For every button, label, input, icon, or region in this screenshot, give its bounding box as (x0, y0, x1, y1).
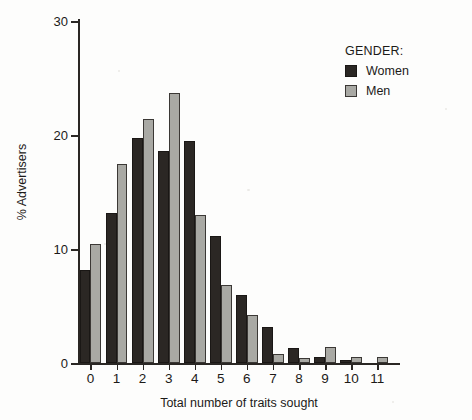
bar-women-2 (132, 138, 143, 363)
bar-women-0 (80, 270, 91, 363)
bar-men-5 (221, 285, 232, 363)
x-tick-2 (143, 364, 145, 370)
legend-swatch-women-icon (345, 65, 357, 77)
bar-men-6 (247, 315, 258, 363)
bar-men-8 (299, 358, 310, 363)
x-tick-9 (325, 364, 327, 370)
bar-men-3 (169, 93, 180, 363)
bar-women-1 (106, 213, 117, 363)
bar-men-11 (377, 357, 388, 363)
legend-swatch-men-icon (345, 85, 357, 97)
x-tick-8 (299, 364, 301, 370)
x-tick-1 (117, 364, 119, 370)
bar-men-2 (143, 119, 154, 363)
y-tick-20 (71, 135, 78, 137)
x-tick-label-11: 11 (362, 372, 392, 386)
y-tick-label-10: 10 (28, 243, 68, 256)
y-tick-label-30: 30 (28, 15, 68, 28)
scan-speckle (445, 108, 447, 110)
bar-men-0 (90, 244, 101, 363)
bar-men-10 (351, 357, 362, 363)
y-tick-10 (71, 249, 78, 251)
x-tick-6 (247, 364, 249, 370)
bar-men-9 (325, 347, 336, 363)
x-tick-7 (273, 364, 275, 370)
bar-women-3 (158, 151, 169, 363)
legend-item-women: Women (345, 65, 409, 78)
bar-women-9 (314, 357, 325, 363)
legend-label-women: Women (366, 65, 409, 78)
y-tick-label-0: 0 (28, 357, 68, 370)
legend-label-men: Men (366, 85, 390, 98)
x-tick-4 (195, 364, 197, 370)
x-tick-10 (351, 364, 353, 370)
bar-women-7 (262, 327, 273, 363)
bar-women-8 (288, 348, 299, 363)
x-tick-0 (90, 364, 92, 370)
bar-women-6 (236, 295, 247, 363)
bar-men-1 (117, 164, 128, 364)
y-tick-0 (71, 363, 78, 365)
bar-women-10 (340, 360, 351, 363)
x-axis-title: Total number of traits sought (78, 396, 400, 410)
bar-men-7 (273, 354, 284, 363)
bar-women-4 (184, 141, 195, 363)
y-axis-title: % Advertisers (15, 122, 29, 242)
bar-chart-figure: 0 10 20 30 % Advertisers 01234567891011 … (0, 0, 472, 420)
x-tick-3 (169, 364, 171, 370)
legend-title: GENDER: (345, 44, 409, 58)
bar-women-5 (210, 236, 221, 363)
x-tick-5 (221, 364, 223, 370)
bar-men-4 (195, 215, 206, 363)
y-tick-label-20: 20 (28, 129, 68, 142)
x-tick-11 (377, 364, 379, 370)
y-tick-30 (71, 21, 78, 23)
legend: GENDER: Women Men (345, 44, 409, 104)
legend-item-men: Men (345, 85, 409, 98)
